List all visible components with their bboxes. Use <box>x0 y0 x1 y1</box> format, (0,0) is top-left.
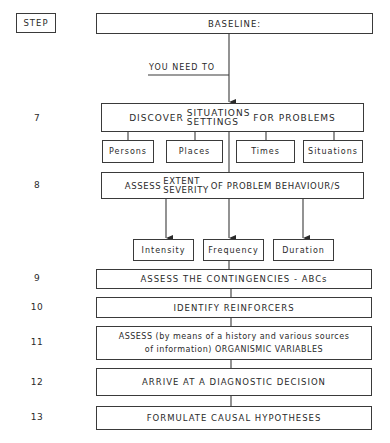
child-box-persons: Persons <box>102 140 154 163</box>
step-13-box: FORMULATE CAUSAL HYPOTHESES <box>96 406 372 430</box>
step-10-label: IDENTIFY REINFORCERS <box>173 303 294 313</box>
baseline-box: BASELINE: <box>96 13 373 34</box>
step-7-suffix: FOR PROBLEMS <box>253 113 336 123</box>
child-label-situations: Situations <box>308 147 358 156</box>
step-number-9: 9 <box>22 273 52 283</box>
step-11-box: ASSESS (by means of a history and variou… <box>96 326 372 360</box>
child-label-frequency: Frequency <box>208 246 258 255</box>
step-8-stack-bottom: SEVERITY <box>163 186 209 195</box>
step-7-box: DISCOVER SITUATIONS SETTINGS FOR PROBLEM… <box>101 103 364 132</box>
child-box-frequency: Frequency <box>203 239 264 261</box>
step-8-suffix: OF PROBLEM BEHAVIOUR/S <box>211 181 340 191</box>
step-7-prefix: DISCOVER <box>129 113 184 123</box>
step-7-stack: SITUATIONS SETTINGS <box>187 109 251 127</box>
child-box-duration: Duration <box>273 239 334 261</box>
step-9-box: ASSESS THE CONTINGENCIES - ABCs <box>96 269 372 289</box>
child-box-situations: Situations <box>303 140 363 163</box>
step-11-line-1: ASSESS (by means of a history and variou… <box>119 330 350 343</box>
step-9-label: ASSESS THE CONTINGENCIES - ABCs <box>140 274 327 284</box>
step-number-10: 10 <box>22 302 52 312</box>
child-label-times: Times <box>251 147 280 156</box>
step-8-prefix: ASSESS <box>125 181 161 191</box>
step-header-box: STEP <box>16 13 56 33</box>
step-number-11: 11 <box>22 337 52 347</box>
step-13-label: FORMULATE CAUSAL HYPOTHESES <box>147 413 322 423</box>
child-box-times: Times <box>236 140 295 163</box>
step-8-stack: EXTENT SEVERITY <box>163 177 209 195</box>
baseline-label: BASELINE: <box>208 19 261 29</box>
step-8-box: ASSESS EXTENT SEVERITY OF PROBLEM BEHAVI… <box>101 172 364 199</box>
child-label-persons: Persons <box>109 147 147 156</box>
step-11-line-2: of information) ORGANISMIC VARIABLES <box>145 343 323 356</box>
child-label-duration: Duration <box>282 246 325 255</box>
step-12-box: ARRIVE AT A DIAGNOSTIC DECISION <box>96 368 372 396</box>
child-label-intensity: Intensity <box>142 246 186 255</box>
child-box-intensity: Intensity <box>133 239 194 261</box>
connector-label: YOU NEED TO <box>149 63 215 72</box>
step-10-box: IDENTIFY REINFORCERS <box>96 297 372 318</box>
step-number-13: 13 <box>22 412 52 422</box>
child-box-places: Places <box>166 140 223 163</box>
step-number-7: 7 <box>22 113 52 123</box>
step-12-label: ARRIVE AT A DIAGNOSTIC DECISION <box>142 377 326 387</box>
step-header-label: STEP <box>23 18 48 28</box>
step-number-8: 8 <box>22 180 52 190</box>
child-label-places: Places <box>179 147 210 156</box>
step-number-12: 12 <box>22 377 52 387</box>
step-7-stack-bottom: SETTINGS <box>187 118 251 127</box>
